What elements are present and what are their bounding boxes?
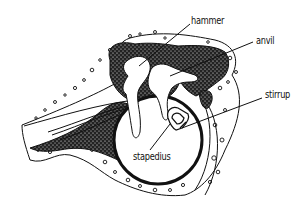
label-anvil: anvil [256, 36, 274, 46]
label-stirrup: stirrup [265, 90, 290, 100]
label-hammer: hammer [191, 16, 224, 26]
middle-ear-diagram: hammer anvil stirrup stapedius [0, 0, 308, 206]
ear-illustration [0, 0, 308, 206]
label-stapedius: stapedius [133, 152, 171, 162]
